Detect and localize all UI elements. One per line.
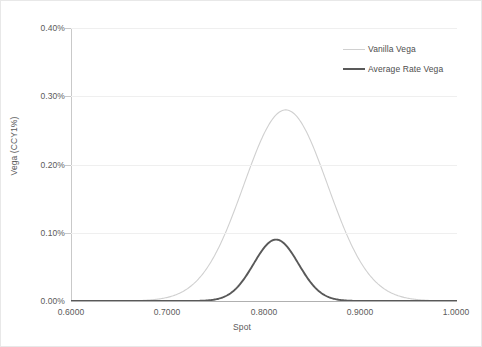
x-axis-title: Spot (1, 322, 482, 332)
caption-fragment (23, 339, 463, 347)
legend-item-vanilla-vega[interactable]: Vanilla Vega (343, 39, 473, 59)
legend-swatch-average-rate-vega (343, 68, 365, 70)
legend-swatch-vanilla-vega (343, 49, 365, 50)
x-tick-label-06: 0.6000 (58, 307, 85, 317)
line-average-rate-vega (71, 240, 457, 301)
gridline-010 (71, 233, 457, 234)
x-tick-label-09: 0.9000 (347, 307, 374, 317)
gridline-030 (71, 96, 457, 97)
legend-item-average-rate-vega[interactable]: Average Rate Vega (343, 59, 473, 79)
legend-label-average-rate-vega: Average Rate Vega (368, 64, 443, 74)
x-tick-label-07: 0.7000 (154, 307, 181, 317)
legend-label-vanilla-vega: Vanilla Vega (368, 44, 416, 54)
x-axis-line (71, 301, 457, 302)
gridline-040 (71, 28, 457, 29)
vega-chart-figure: 0.40% 0.30% 0.20% 0.10% 0.00% 0.6000 0.7… (0, 0, 482, 347)
chart-legend: Vanilla Vega Average Rate Vega (343, 39, 473, 79)
y-tick-label-000: 0.00% (13, 296, 65, 306)
x-tick-label-08: 0.8000 (251, 307, 278, 317)
x-tick-label-10: 1.0000 (443, 307, 470, 317)
line-vanilla-vega (71, 110, 457, 301)
y-tick-label-020: 0.20% (13, 160, 65, 170)
gridline-020 (71, 165, 457, 166)
y-tick-label-030: 0.30% (13, 91, 65, 101)
y-axis-title: Vega (CCY1%) (9, 91, 19, 201)
y-tick-label-040: 0.40% (13, 23, 65, 33)
y-tick-label-010: 0.10% (13, 228, 65, 238)
